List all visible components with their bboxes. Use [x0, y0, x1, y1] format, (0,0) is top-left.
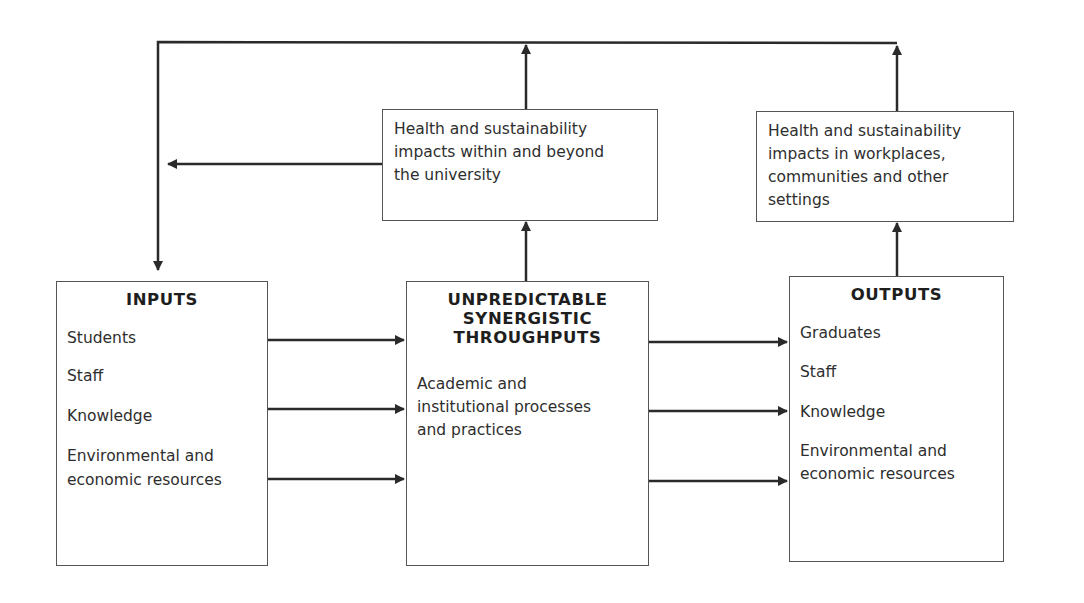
- impact-line: the university: [394, 164, 604, 187]
- university-impacts-box: Health and sustainability impacts within…: [382, 109, 658, 221]
- throughputs-title-line: UNPREDICTABLE: [407, 290, 648, 309]
- throughputs-box: UNPREDICTABLE SYNERGISTIC THROUGHPUTS Ac…: [406, 281, 649, 566]
- inputs-title: INPUTS: [57, 290, 267, 309]
- impact-line: communities and other: [768, 166, 961, 189]
- input-item-resources-line1: Environmental and: [67, 445, 214, 468]
- throughputs-description: Academic and institutional processes and…: [417, 373, 591, 442]
- impact-line: impacts in workplaces,: [768, 143, 961, 166]
- throughputs-title-line: THROUGHPUTS: [407, 328, 648, 347]
- output-item-resources-line2: economic resources: [800, 463, 955, 486]
- input-item-students: Students: [67, 327, 136, 350]
- input-item-knowledge: Knowledge: [67, 405, 152, 428]
- throughputs-line: institutional processes: [417, 396, 591, 419]
- settings-impacts-text: Health and sustainability impacts in wor…: [768, 120, 961, 212]
- throughputs-title-line: SYNERGISTIC: [407, 309, 648, 328]
- throughputs-line: Academic and: [417, 373, 591, 396]
- throughputs-title: UNPREDICTABLE SYNERGISTIC THROUGHPUTS: [407, 290, 648, 347]
- outputs-title: OUTPUTS: [790, 285, 1003, 304]
- output-item-knowledge: Knowledge: [800, 401, 885, 424]
- output-item-staff: Staff: [800, 361, 836, 384]
- output-item-graduates: Graduates: [800, 322, 881, 345]
- impact-line: Health and sustainability: [768, 120, 961, 143]
- impact-line: settings: [768, 189, 961, 212]
- output-item-resources-line1: Environmental and: [800, 440, 947, 463]
- throughputs-line: and practices: [417, 419, 591, 442]
- settings-impacts-box: Health and sustainability impacts in wor…: [756, 111, 1014, 222]
- input-item-staff: Staff: [67, 365, 103, 388]
- impact-line: Health and sustainability: [394, 118, 604, 141]
- input-item-resources-line2: economic resources: [67, 469, 222, 492]
- outputs-box: OUTPUTS Graduates Staff Knowledge Enviro…: [789, 276, 1004, 562]
- impact-line: impacts within and beyond: [394, 141, 604, 164]
- university-impacts-text: Health and sustainability impacts within…: [394, 118, 604, 187]
- inputs-box: INPUTS Students Staff Knowledge Environm…: [56, 281, 268, 566]
